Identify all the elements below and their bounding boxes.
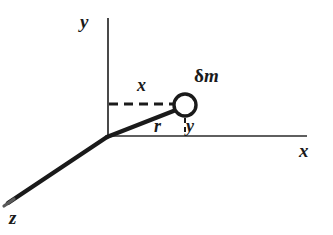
x-coordinate-label: x <box>137 76 146 94</box>
delta-symbol: δ <box>194 65 204 86</box>
radius-label: r <box>154 117 161 135</box>
z-axis-line <box>8 137 107 203</box>
z-axis-label: z <box>9 208 16 227</box>
x-axis-label: x <box>299 141 309 160</box>
y-axis-label: y <box>80 12 88 31</box>
y-coordinate-label: y <box>186 117 194 135</box>
figure-canvas: y x z x y r δm <box>0 0 333 235</box>
mass-element-label: δm <box>194 66 219 85</box>
position-vector-line <box>107 110 176 137</box>
mass-symbol: m <box>204 65 219 86</box>
mass-element-circle <box>174 94 196 116</box>
coordinate-diagram <box>0 0 333 235</box>
